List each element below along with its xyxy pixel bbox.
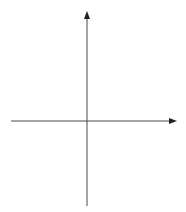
y-axis-arrow (84, 11, 90, 19)
x-axis-arrow (169, 118, 177, 124)
distance-diagram (0, 0, 186, 212)
